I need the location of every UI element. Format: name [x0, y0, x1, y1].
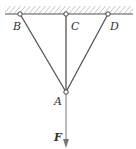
label-f: F [53, 131, 63, 144]
label-a: A [53, 95, 62, 108]
force-arrow [63, 92, 69, 148]
pin-d [106, 12, 110, 16]
label-d: D [109, 20, 119, 33]
bars [20, 14, 108, 92]
label-b: B [12, 20, 21, 33]
ceiling [5, 6, 133, 14]
pin-a [64, 90, 68, 94]
pin-c [64, 12, 68, 16]
bar-ab [20, 14, 66, 92]
pin-b [18, 12, 22, 16]
pins [18, 12, 110, 94]
truss-diagram: B C D A F [0, 0, 136, 149]
label-c: C [71, 20, 80, 33]
